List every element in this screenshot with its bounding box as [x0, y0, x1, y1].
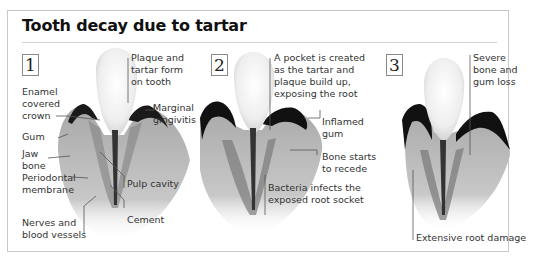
label-bacteria-infects: Bacteria infects the exposed root socket [268, 182, 364, 206]
stage-number-1: 1 [22, 54, 39, 76]
label-gum: Gum [22, 131, 45, 143]
label-extensive-root-damage: Extensive root damage [416, 232, 526, 244]
label-plaque-and-tartar: Plaque and tartar form on tooth [131, 52, 184, 88]
label-inflamed-gum: Inflamed gum [322, 116, 364, 140]
label-jaw-bone: Jaw bone [22, 148, 46, 172]
stage-number-3: 3 [386, 54, 403, 76]
label-nerves-and-blood-vessels: Nerves and blood vessels [22, 217, 86, 241]
label-enamel-covered-crown: Enamel covered crown [22, 86, 60, 122]
label-cement: Cement [127, 214, 164, 226]
stage-number-2: 2 [211, 54, 228, 76]
label-pulp-cavity: Pulp cavity [127, 178, 179, 190]
label-marginal-gingivitis: Marginal gingivitis [153, 102, 196, 126]
label-pocket-created: A pocket is created as the tartar and pl… [274, 52, 365, 100]
label-severe-bone-gum-loss: Severe bone and gum loss [473, 52, 518, 88]
label-periodontal-membrane: Periodontal membrane [22, 172, 76, 196]
label-bone-recede: Bone starts to recede [322, 151, 376, 175]
